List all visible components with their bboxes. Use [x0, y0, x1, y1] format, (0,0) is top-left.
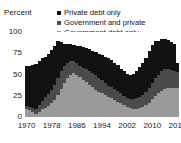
bar-segment: [31, 112, 34, 117]
bar-segment: [113, 63, 116, 89]
bar-segment: [60, 89, 63, 117]
bar-segment: [173, 71, 176, 88]
bar-segment: [163, 39, 166, 70]
bar-segment: [56, 41, 59, 78]
bar-segment: [138, 67, 141, 97]
bar-segment: [163, 89, 166, 117]
bar-segment: [176, 63, 179, 71]
bar-segment: [25, 109, 28, 118]
bar-segment: [63, 44, 66, 66]
bar-segment: [31, 108, 34, 112]
bar-segment: [173, 88, 176, 117]
bar-segment: [100, 80, 103, 93]
bar-segment: [141, 63, 144, 95]
bar-segment: [173, 44, 176, 71]
chart-container: Percent Private debt only Government and…: [0, 0, 181, 143]
bar-segment: [138, 97, 141, 108]
bar-segment: [97, 78, 100, 92]
bar-segment: [141, 95, 144, 107]
bar-segment: [107, 97, 110, 117]
bar-segment: [47, 106, 50, 117]
bar-segment: [41, 58, 44, 101]
bar-segment: [132, 99, 135, 108]
bar-segment: [104, 83, 107, 95]
bar-segment: [38, 61, 41, 105]
bar-segment: [116, 102, 119, 117]
bar-segment: [100, 55, 103, 80]
bar-segment: [47, 94, 50, 106]
bar-segment: [144, 58, 147, 93]
bar-segment: [170, 70, 173, 88]
bar-segment: [53, 46, 56, 85]
bar-segment: [88, 85, 91, 117]
legend-swatch-private-icon: [57, 11, 61, 15]
x-tick-label: 1970: [18, 121, 36, 130]
x-axis-ticks: 1970197819861994200220102018: [0, 121, 181, 133]
bar-segment: [126, 74, 129, 99]
bar-segment: [170, 42, 173, 70]
bar-segment: [47, 54, 50, 94]
bar-segment: [72, 45, 75, 61]
bar-segment: [138, 108, 141, 117]
bar-segment: [88, 71, 91, 85]
bar-segment: [41, 101, 44, 110]
bar-segment: [56, 78, 59, 95]
bar-segment: [132, 109, 135, 118]
bar-segment: [82, 68, 85, 80]
y-tick-label: 100: [9, 28, 22, 36]
x-tick-label: 2018: [169, 121, 181, 130]
bar-segment: [60, 71, 63, 89]
bar-segment: [31, 65, 34, 108]
bar-segment: [66, 63, 69, 78]
bar-segment: [53, 100, 56, 117]
bar-segment: [166, 69, 169, 88]
bar-segment: [176, 72, 179, 88]
bar-segment: [148, 103, 151, 117]
legend-label-government-and-private: Government and private: [64, 18, 145, 27]
bar-segment: [144, 92, 147, 105]
bar-segment: [85, 82, 88, 117]
bar-segment: [72, 73, 75, 117]
bar-segment: [91, 87, 94, 117]
legend-swatch-government-and-private-icon: [57, 21, 61, 25]
bar-segment: [69, 44, 72, 61]
bar-segment: [34, 64, 37, 108]
bar-segment: [38, 105, 41, 112]
bar-segment: [119, 93, 122, 103]
x-tick-label: 2002: [118, 121, 136, 130]
bar-segment: [135, 109, 138, 118]
bar-segment: [154, 41, 157, 78]
bar-segment: [170, 88, 173, 117]
bar-segment: [34, 109, 37, 114]
bar-segment: [63, 83, 66, 117]
bar-segment: [72, 61, 75, 73]
bar-segment: [94, 90, 97, 117]
bar-segment: [104, 57, 107, 83]
bar-segment: [126, 98, 129, 107]
bar-segment: [78, 46, 81, 66]
y-tick-label: 50: [13, 71, 22, 79]
y-tick-label: 25: [13, 92, 22, 100]
bar-segment: [157, 75, 160, 94]
bar-segment: [119, 69, 122, 94]
bar-segment: [107, 86, 110, 97]
bar-segment: [157, 93, 160, 117]
bar-segment: [56, 95, 59, 117]
bar-segment: [104, 95, 107, 117]
bar-segment: [126, 107, 129, 117]
bar-segment: [25, 106, 28, 109]
bar-segment: [66, 44, 69, 63]
bar-segment: [69, 61, 72, 75]
bar-segment: [141, 107, 144, 117]
bar-segment: [34, 114, 37, 117]
bar-segment: [85, 69, 88, 82]
bar-segment: [129, 75, 132, 100]
bottom-spacer: [0, 135, 181, 143]
bar-segment: [28, 110, 31, 117]
bar-segment: [50, 103, 53, 117]
legend-item-government-and-private: Government and private: [57, 18, 181, 27]
bar-segment: [94, 52, 97, 75]
bar-segment: [166, 88, 169, 117]
bar-segment: [110, 60, 113, 87]
bar-segment: [50, 90, 53, 104]
